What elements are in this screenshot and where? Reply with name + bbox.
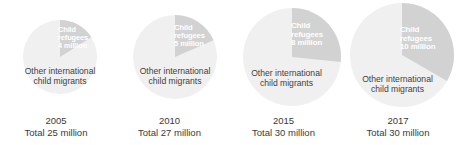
pie-graphic	[112, 0, 227, 115]
other-migrants-label: Other international child migrants	[345, 74, 450, 94]
panel-total: Total 25 million	[0, 127, 112, 139]
pie-slice-child-refugees	[292, 8, 341, 62]
pie-chart-series: Child refugees 4 millionOther internatio…	[0, 0, 456, 145]
panel-caption: 2010Total 27 million	[112, 115, 227, 139]
panel-year: 2015	[227, 115, 340, 127]
panel-total: Total 27 million	[112, 127, 227, 139]
panel-caption: 2005Total 25 million	[0, 115, 112, 139]
panel-year: 2017	[340, 115, 456, 127]
pie-panel-2010: Child refugees 5 millionOther internatio…	[112, 0, 227, 145]
pie-graphic	[0, 0, 112, 115]
panel-year: 2005	[0, 115, 112, 127]
other-migrants-label: Other international child migrants	[124, 66, 226, 86]
pie-graphic	[340, 0, 456, 115]
other-migrants-label: Other international child migrants	[12, 66, 108, 86]
panel-total: Total 30 million	[227, 127, 340, 139]
pie-graphic	[227, 0, 340, 115]
panel-caption: 2017Total 30 million	[340, 115, 456, 139]
pie-panel-2017: Child refugees 10 millionOther internati…	[340, 0, 456, 145]
other-migrants-label: Other international child migrants	[234, 68, 339, 88]
panel-year: 2010	[112, 115, 227, 127]
pie-panel-2015: Child refugees 8 millionOther internatio…	[227, 0, 340, 145]
pie-panel-2005: Child refugees 4 millionOther internatio…	[0, 0, 112, 145]
panel-caption: 2015Total 30 million	[227, 115, 340, 139]
panel-total: Total 30 million	[340, 127, 456, 139]
